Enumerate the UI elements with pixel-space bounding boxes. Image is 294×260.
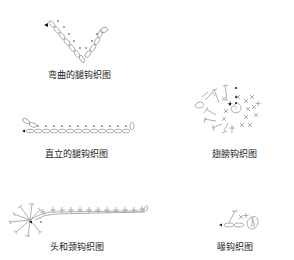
head-neck-chart-icon — [5, 200, 150, 240]
straight-leg-diagram — [20, 115, 138, 140]
head-neck-diagram — [5, 200, 150, 240]
straight-leg-caption: 直立的腿钩织图 — [45, 147, 108, 160]
bent-leg-diagram — [40, 15, 110, 65]
beak-caption: 喙钩织图 — [217, 240, 253, 253]
wing-diagram — [192, 83, 272, 143]
head-neck-caption: 头和颈钩织图 — [50, 240, 104, 253]
beak-diagram — [215, 205, 265, 235]
bent-leg-chart-icon — [40, 15, 110, 65]
wing-caption: 翅膀钩织图 — [212, 147, 257, 160]
straight-leg-chart-icon — [20, 115, 138, 140]
bent-leg-caption: 弯曲的腿钩织图 — [48, 68, 111, 81]
wing-chart-icon — [192, 83, 272, 143]
beak-chart-icon — [215, 205, 265, 235]
